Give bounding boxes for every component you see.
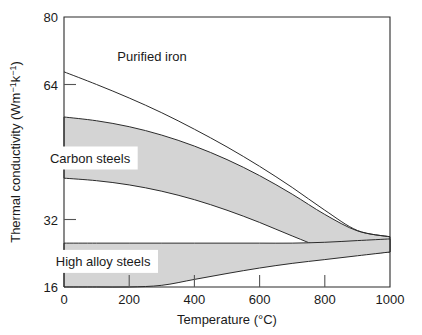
- y-tick-label-64: 64: [44, 78, 58, 93]
- y-tick-label-80: 80: [44, 10, 58, 25]
- thermal-conductivity-chart: 80 64 48 32 16 0 200 400 600 800 1000 Te…: [0, 0, 422, 335]
- x-tick-label-200: 200: [118, 292, 140, 307]
- annotation-purified-iron: Purified iron: [110, 45, 193, 68]
- x-tick-label-1000: 1000: [376, 292, 405, 307]
- x-axis-title: Temperature (°C): [177, 312, 277, 327]
- x-tick-label-800: 800: [314, 292, 336, 307]
- annotation-carbon-steels-label: Carbon steels: [50, 151, 131, 166]
- annotation-carbon-steels: Carbon steels: [43, 147, 138, 170]
- annotation-high-alloy-steels: High alloy steels: [49, 250, 158, 273]
- annotation-purified-iron-label: Purified iron: [117, 49, 186, 64]
- y-tick-label-16: 16: [44, 280, 58, 295]
- y-axis-title-sup1: −1: [8, 82, 18, 92]
- annotation-high-alloy-steels-label: High alloy steels: [56, 254, 151, 269]
- y-axis-title-main: Thermal conductivity (Wm: [8, 93, 23, 243]
- x-tick-label-400: 400: [184, 292, 206, 307]
- x-tick-label-600: 600: [249, 292, 271, 307]
- chart-figure: 80 64 48 32 16 0 200 400 600 800 1000 Te…: [0, 0, 422, 335]
- y-axis-title: Thermal conductivity (Wm−1k−1): [8, 61, 23, 243]
- y-axis-title-sup2: −1: [8, 66, 18, 76]
- x-tick-label-0: 0: [60, 292, 67, 307]
- y-tick-label-32: 32: [44, 213, 58, 228]
- x-axis-tick-labels: 0 200 400 600 800 1000: [60, 292, 404, 307]
- y-axis-title-close: ): [8, 61, 23, 65]
